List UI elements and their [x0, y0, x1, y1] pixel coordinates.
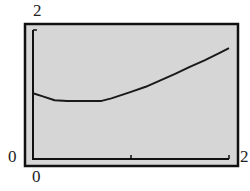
plot-frame [25, 24, 238, 166]
x-axis-min-label: 0 [32, 168, 41, 185]
x-axis-max-label: 2 [240, 148, 249, 165]
plot-area [0, 0, 250, 191]
y-axis-min-label: 0 [8, 148, 17, 165]
y-axis-max-label: 2 [33, 2, 42, 19]
